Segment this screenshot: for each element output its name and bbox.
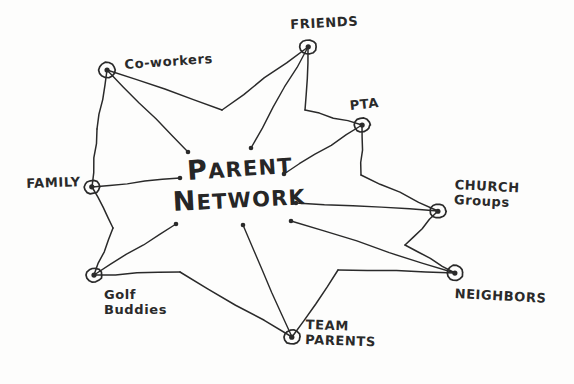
- spoke-endpoint-dot-neighbors: [289, 219, 294, 224]
- spoke-church-groups: [296, 203, 438, 211]
- node-label-church-groups: CHURCH Groups: [453, 178, 519, 210]
- spoke-pta: [284, 125, 362, 174]
- star-edge-friends-in: [305, 47, 308, 110]
- center-title-rest-2: ETWORK: [196, 185, 306, 215]
- node-dot-friends[interactable]: [306, 44, 311, 49]
- node-label-family: FAMILY: [26, 175, 81, 191]
- center-title-cap-n: N: [172, 185, 197, 217]
- spoke-neighbors: [291, 221, 455, 273]
- star-edge-church-groups-out: [405, 245, 455, 273]
- star-edge-co-workers-in: [107, 70, 222, 110]
- spoke-endpoint-dot-team-parents: [241, 223, 246, 228]
- spoke-endpoint-dot-co-workers: [186, 150, 191, 155]
- star-edge-team-parents-out: [94, 272, 180, 275]
- star-edge-family-out: [97, 70, 107, 129]
- node-dot-family[interactable]: [89, 184, 94, 189]
- center-title-rest-1: ARENT: [207, 154, 293, 184]
- node-dot-neighbors[interactable]: [452, 270, 457, 275]
- star-edge-co-workers-out: [222, 47, 308, 110]
- spoke-endpoint-dot-family: [178, 176, 183, 181]
- node-dot-co-workers[interactable]: [104, 67, 109, 72]
- star-edge-family-in: [92, 129, 97, 187]
- star-edge-team-parents-in: [180, 272, 292, 337]
- node-label-golf-buddies: Golf Buddies: [104, 288, 167, 317]
- star-edge-pta-out: [361, 175, 438, 211]
- star-edge-neighbors-in: [338, 270, 455, 273]
- node-dot-pta[interactable]: [360, 122, 365, 127]
- node-dot-team-parents[interactable]: [289, 335, 294, 340]
- spoke-golf-buddies: [94, 224, 176, 275]
- spoke-team-parents: [243, 225, 292, 337]
- spoke-co-workers: [107, 70, 188, 152]
- node-label-pta: PTA: [349, 96, 380, 114]
- mind-map-canvas: PARENT NETWORK Co-workersFRIENDSPTACHURC…: [0, 0, 574, 384]
- node-label-team-parents: TEAM PARENTS: [305, 318, 377, 350]
- node-dot-church-groups[interactable]: [435, 209, 440, 214]
- spoke-endpoint-dot-golf-buddies: [174, 222, 179, 227]
- node-dot-golf-buddies[interactable]: [91, 273, 96, 278]
- spoke-friends: [251, 47, 308, 148]
- center-title-cap-p: P: [186, 154, 209, 186]
- spoke-family: [92, 178, 180, 187]
